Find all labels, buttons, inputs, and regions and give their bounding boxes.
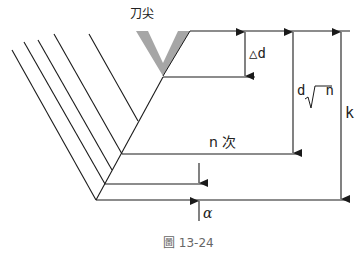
tool-tip-label: 刀尖 — [130, 4, 154, 21]
alpha-label: α — [203, 205, 212, 221]
d-sqrt-n-n: n — [325, 82, 333, 98]
n-pass-label: n 次 — [209, 131, 236, 151]
thread-cutting-diagram — [0, 0, 363, 257]
delta-d-label: △d — [249, 45, 266, 61]
flank-line-right — [96, 77, 163, 200]
d-sqrt-n-label: dn — [297, 82, 334, 98]
tool-tip-icon — [136, 31, 190, 76]
pass-lines — [12, 34, 138, 200]
k-label: k — [345, 104, 354, 122]
d-sqrt-n-d: d — [297, 82, 305, 98]
figure-caption: 圖 13-24 — [163, 233, 214, 250]
